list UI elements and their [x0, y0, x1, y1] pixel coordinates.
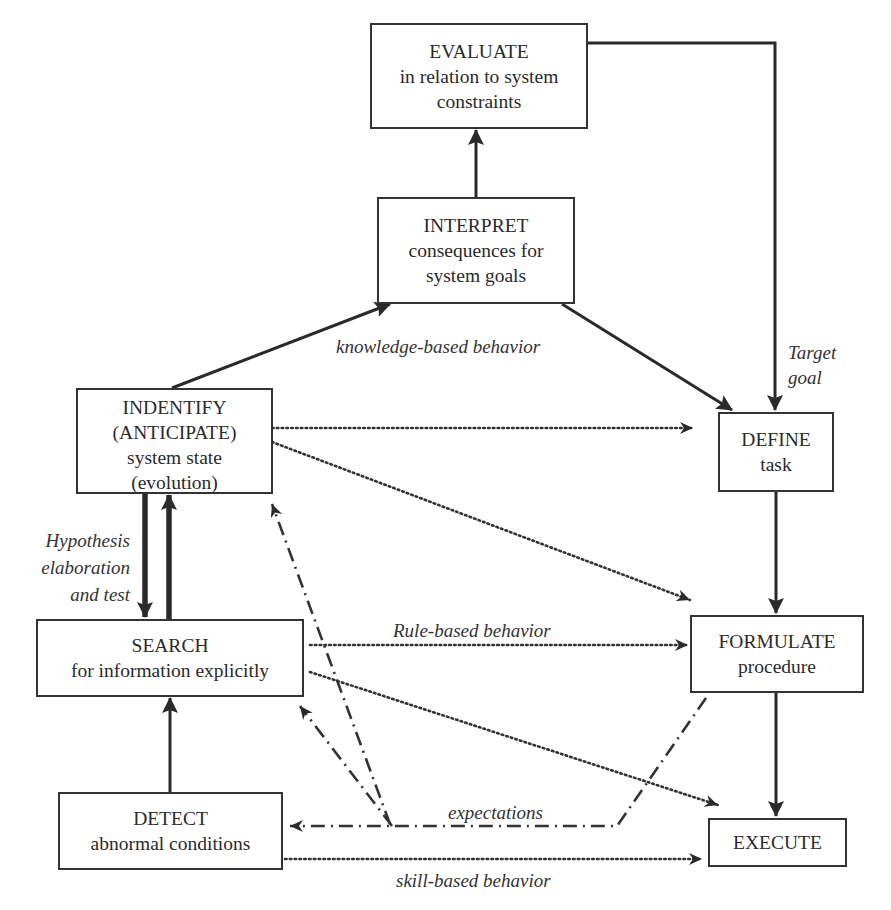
detect-title: DETECT: [133, 806, 208, 831]
interpret-box: INTERPRET consequences for system goals: [377, 197, 575, 304]
detect-line2: abnormal conditions: [91, 831, 251, 856]
formulate-line2: procedure: [738, 654, 816, 679]
identify-line4: (evolution): [131, 470, 218, 495]
arrow-evaluate-to-define: [587, 43, 775, 410]
expectations-label: expectations: [448, 800, 543, 825]
identify-line3: system state: [127, 445, 222, 470]
evaluate-line2: in relation to system: [400, 64, 559, 89]
dashdot-expectations-to-search: [300, 706, 392, 826]
interpret-line3: system goals: [426, 263, 526, 288]
dotted-search-to-execute: [310, 672, 718, 805]
search-title: SEARCH: [132, 633, 209, 658]
identify-box: INDENTIFY (ANTICIPATE) system state (evo…: [76, 388, 273, 494]
skill-based-label: skill-based behavior: [396, 868, 551, 893]
target-goal-label-1: Target: [788, 340, 836, 365]
identify-line2: (ANTICIPATE): [113, 420, 237, 445]
hypothesis-label-3: and test: [0, 582, 130, 607]
formulate-title: FORMULATE: [718, 629, 835, 654]
execute-title: EXECUTE: [733, 830, 822, 855]
define-line2: task: [760, 452, 791, 477]
interpret-title: INTERPRET: [423, 213, 528, 238]
define-box: DEFINE task: [718, 412, 834, 492]
evaluate-title: EVALUATE: [429, 39, 528, 64]
dotted-identify-to-formulate: [272, 442, 690, 600]
hypothesis-label-2: elaboration: [0, 555, 130, 580]
define-title: DEFINE: [741, 427, 810, 452]
search-box: SEARCH for information explicitly: [36, 619, 304, 697]
formulate-box: FORMULATE procedure: [690, 615, 864, 693]
arrow-interpret-to-define: [562, 304, 732, 410]
execute-box: EXECUTE: [708, 818, 847, 867]
detect-box: DETECT abnormal conditions: [58, 792, 283, 870]
interpret-line2: consequences for: [409, 238, 544, 263]
search-line2: for information explicitly: [71, 658, 269, 683]
evaluate-box: EVALUATE in relation to system constrain…: [370, 23, 588, 129]
hypothesis-label-1: Hypothesis: [0, 528, 130, 553]
identify-title: INDENTIFY: [123, 395, 227, 420]
target-goal-label-2: goal: [788, 365, 822, 390]
evaluate-line3: constraints: [437, 89, 521, 114]
knowledge-based-label: knowledge-based behavior: [336, 334, 540, 359]
rule-based-label: Rule-based behavior: [393, 618, 551, 643]
